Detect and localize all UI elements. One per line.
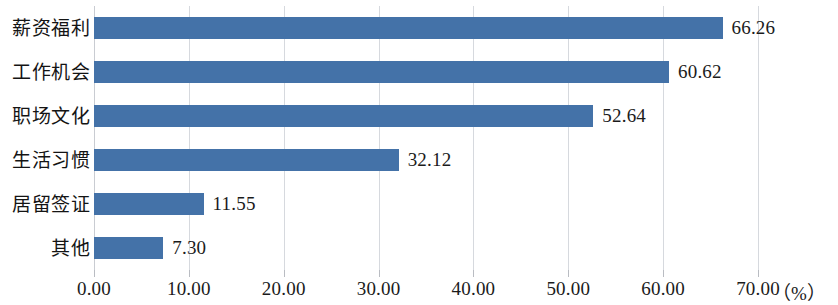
axis-tick-mark xyxy=(758,270,759,277)
axis-tick-mark xyxy=(568,270,569,277)
axis-tick-label: 30.00 xyxy=(357,278,401,300)
bar-value-label: 32.12 xyxy=(399,149,452,171)
bar xyxy=(94,61,669,83)
axis-tick-mark xyxy=(94,270,95,277)
axis-tick-mark xyxy=(663,270,664,277)
bar-value-label: 60.62 xyxy=(669,61,722,83)
bar xyxy=(94,193,204,215)
bar-value-label: 66.26 xyxy=(723,17,776,39)
category-label: 工作机会 xyxy=(12,50,90,94)
bar-row: 66.26 xyxy=(94,6,758,50)
category-label: 职场文化 xyxy=(12,94,90,138)
bar-row: 7.30 xyxy=(94,226,758,270)
axis-tick-label: 50.00 xyxy=(546,278,590,300)
axis-tick-mark xyxy=(189,270,190,277)
horizontal-bar-chart: 薪资福利工作机会职场文化生活习惯居留签证其他 66.2660.6252.6432… xyxy=(0,0,838,305)
axis-tick-mark xyxy=(284,270,285,277)
bar xyxy=(94,237,163,259)
axis-tick-label: 60.00 xyxy=(641,278,685,300)
bar xyxy=(94,17,723,39)
axis-unit-label: （%） xyxy=(772,278,826,305)
bar xyxy=(94,105,593,127)
category-label: 居留签证 xyxy=(12,182,90,226)
axis-tick-mark xyxy=(473,270,474,277)
category-label: 薪资福利 xyxy=(12,6,90,50)
bar-value-label: 52.64 xyxy=(593,105,646,127)
value-axis: 0.0010.0020.0030.0040.0050.0060.0070.00 xyxy=(94,270,758,305)
axis-tick-label: 0.00 xyxy=(77,278,111,300)
category-label: 其他 xyxy=(51,226,90,270)
bar xyxy=(94,149,399,171)
bar-row: 32.12 xyxy=(94,138,758,182)
bar-row: 52.64 xyxy=(94,94,758,138)
axis-tick-mark xyxy=(379,270,380,277)
bar-row: 60.62 xyxy=(94,50,758,94)
axis-tick-label: 20.00 xyxy=(262,278,306,300)
bar-value-label: 7.30 xyxy=(163,237,206,259)
bar-row: 11.55 xyxy=(94,182,758,226)
axis-tick-label: 40.00 xyxy=(452,278,496,300)
gridline xyxy=(758,6,759,270)
plot-area: 66.2660.6252.6432.1211.557.30 xyxy=(94,6,758,270)
bar-value-label: 11.55 xyxy=(204,193,256,215)
axis-tick-label: 10.00 xyxy=(167,278,211,300)
category-label: 生活习惯 xyxy=(12,138,90,182)
category-axis: 薪资福利工作机会职场文化生活习惯居留签证其他 xyxy=(0,6,90,270)
